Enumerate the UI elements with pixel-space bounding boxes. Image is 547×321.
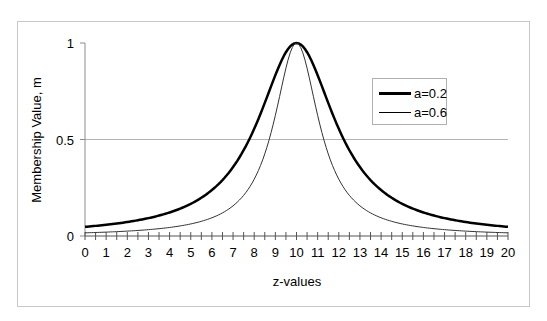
y-axis-title: Membership Value, m: [29, 77, 44, 202]
x-tick-label: 12: [332, 245, 346, 260]
x-tick-label: 0: [81, 245, 88, 260]
legend-label: a=0.6: [414, 105, 447, 120]
legend-item-a06: a=0.6: [379, 104, 447, 120]
x-tick-label: 11: [311, 245, 325, 260]
x-axis-title: z-values: [273, 274, 322, 289]
legend-swatch-thick-line: [379, 92, 411, 95]
x-tick-label: 17: [437, 245, 451, 260]
legend: a=0.2 a=0.6: [372, 78, 447, 125]
data-series: [85, 43, 508, 233]
x-tick-label: 7: [229, 245, 236, 260]
x-tick-label: 8: [251, 245, 258, 260]
x-tick-label: 9: [272, 245, 279, 260]
x-tick-label: 3: [145, 245, 152, 260]
x-tick-label: 6: [208, 245, 215, 260]
series-line-a06: [85, 43, 508, 233]
x-tick-label: 20: [501, 245, 515, 260]
x-tick-label: 4: [166, 245, 173, 260]
series-line-a02: [85, 43, 508, 227]
x-tick-label: 15: [395, 245, 409, 260]
x-tick-label: 5: [187, 245, 194, 260]
x-tick-label: 19: [480, 245, 494, 260]
legend-item-a02: a=0.2: [379, 85, 447, 101]
x-tick-label: 10: [289, 245, 303, 260]
legend-swatch-thin-line: [379, 112, 411, 113]
y-tick-label: 0.5: [56, 133, 74, 148]
legend-label: a=0.2: [414, 86, 447, 101]
y-tick-label: 1: [67, 36, 74, 51]
x-tick-label: 1: [103, 245, 110, 260]
x-tick-label: 14: [374, 245, 388, 260]
x-tick-label: 16: [416, 245, 430, 260]
y-tick-label: 0: [67, 229, 74, 244]
x-tick-label: 13: [353, 245, 367, 260]
line-chart: 00.5101234567891011121314151617181920 z-…: [0, 0, 547, 321]
x-tick-label: 2: [124, 245, 131, 260]
x-tick-label: 18: [458, 245, 472, 260]
